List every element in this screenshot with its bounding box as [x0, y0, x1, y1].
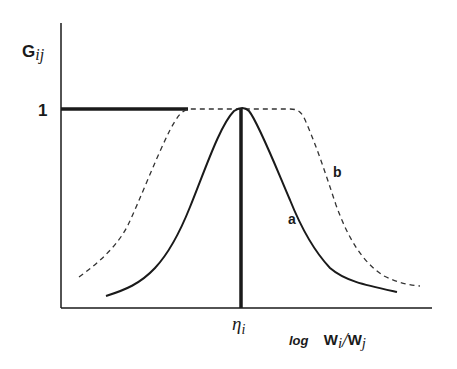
curve-b — [79, 109, 420, 286]
y-axis-label: Gij — [22, 42, 45, 64]
curve-a — [106, 108, 397, 296]
chart: Gij 1 ηi log Wi/Wj a b — [0, 0, 457, 369]
x-axis-label: log Wi/Wj — [289, 329, 366, 351]
x-tick-eta: ηi — [232, 313, 245, 337]
y-tick-label-1: 1 — [38, 101, 47, 120]
curve-b-label: b — [333, 164, 342, 180]
curve-a-label: a — [288, 211, 296, 227]
